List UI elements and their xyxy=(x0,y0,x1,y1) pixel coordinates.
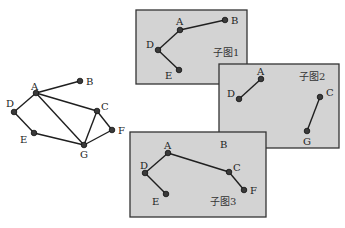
node-label-e: E xyxy=(152,196,159,207)
node-f xyxy=(109,127,115,133)
node-d xyxy=(142,170,148,176)
node-c xyxy=(317,94,323,100)
edge-e-g xyxy=(34,133,84,145)
graph-decomposition-diagram: ABCDEFG ABDE子图1 ADCG子图2 ABDECF子图3 xyxy=(0,0,345,228)
node-label-a: A xyxy=(30,81,39,92)
node-label-b: B xyxy=(86,76,93,87)
subgraph-caption: 子图2 xyxy=(299,71,325,82)
node-label-e: E xyxy=(20,134,27,145)
subgraph-caption: 子图3 xyxy=(210,196,236,207)
node-c xyxy=(226,169,232,175)
node-label-d: D xyxy=(146,39,154,50)
node-label-b: B xyxy=(220,139,227,150)
node-a xyxy=(165,150,171,156)
subgraph-3-panel: ABDECF子图3 xyxy=(130,132,266,217)
node-a xyxy=(258,76,264,82)
node-g xyxy=(304,128,310,134)
node-label-e: E xyxy=(165,70,172,81)
edge-c-f xyxy=(97,111,112,130)
node-d xyxy=(236,96,242,102)
node-e xyxy=(176,67,182,73)
node-label-f: F xyxy=(250,185,257,196)
node-b xyxy=(222,17,228,23)
node-g xyxy=(81,142,87,148)
edge-a-d xyxy=(14,93,36,112)
node-label-c: C xyxy=(233,162,241,173)
node-e xyxy=(31,130,37,136)
node-label-c: C xyxy=(101,101,109,112)
node-d xyxy=(155,47,161,53)
node-label-d: D xyxy=(140,160,148,171)
subgraph-panel-background xyxy=(130,132,266,217)
main-graph: ABCDEFG xyxy=(6,76,125,160)
node-e xyxy=(163,191,169,197)
node-a xyxy=(177,27,183,33)
node-b xyxy=(77,78,83,84)
edge-c-g xyxy=(84,111,97,145)
edge-d-e xyxy=(14,112,34,133)
node-label-f: F xyxy=(118,125,125,136)
node-label-a: A xyxy=(163,140,172,151)
edge-a-b xyxy=(36,81,80,93)
node-label-a: A xyxy=(175,16,184,27)
node-label-g: G xyxy=(303,136,311,147)
node-c xyxy=(94,108,100,114)
node-f xyxy=(241,187,247,193)
node-label-d: D xyxy=(6,98,14,109)
node-d xyxy=(11,109,17,115)
node-label-b: B xyxy=(231,15,238,26)
node-label-g: G xyxy=(80,149,88,160)
node-label-a: A xyxy=(256,66,265,77)
subgraph-caption: 子图1 xyxy=(213,47,239,58)
node-label-d: D xyxy=(227,88,235,99)
node-label-c: C xyxy=(326,87,334,98)
